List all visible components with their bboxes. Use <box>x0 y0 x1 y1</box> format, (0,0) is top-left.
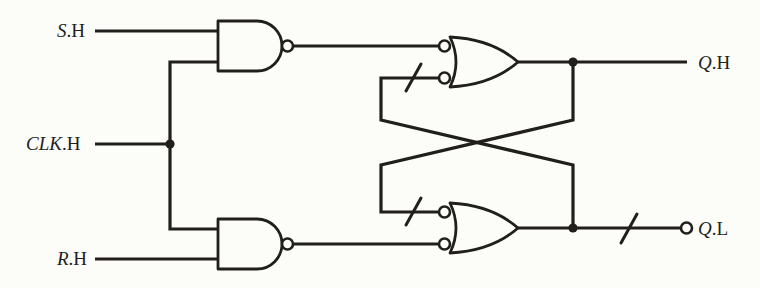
input-label-s: S.H <box>57 20 85 41</box>
label-qh-suffix: .H <box>712 52 731 73</box>
or-gate-top <box>450 37 518 87</box>
label-ql-suffix: .L <box>712 218 728 239</box>
bubble-nand-top-output-icon <box>282 41 293 52</box>
label-qh-var: Q <box>698 52 712 73</box>
nand-gate-bottom <box>218 219 282 269</box>
circuit-canvas: S.H CLK.H R.H Q.H Q.L <box>0 0 760 288</box>
label-clk-var: CLK <box>26 133 63 154</box>
output-label-qh: Q.H <box>698 52 730 73</box>
bubble-or-top-input1-icon <box>439 41 450 52</box>
bubble-ql-output-icon <box>681 223 692 234</box>
output-label-ql: Q.L <box>698 218 728 239</box>
bubble-or-bottom-input2-icon <box>439 239 450 250</box>
input-label-clk: CLK.H <box>26 133 81 154</box>
input-label-r: R.H <box>56 248 87 269</box>
bubble-or-top-input2-icon <box>439 73 450 84</box>
bubble-nand-bottom-output-icon <box>282 239 293 250</box>
junction-dot-clk-icon <box>165 139 174 148</box>
wire-clk-branch <box>170 62 218 229</box>
junction-dot-qh-icon <box>568 57 577 66</box>
or-gate-bottom <box>450 203 518 253</box>
label-s-var: S <box>57 20 67 41</box>
junction-dots <box>165 57 577 232</box>
nand-gate-top <box>218 21 282 71</box>
label-r-suffix: .H <box>69 248 88 269</box>
label-r-var: R <box>56 248 69 269</box>
label-s-suffix: .H <box>67 20 86 41</box>
bubble-or-bottom-input1-icon <box>439 207 450 218</box>
schematic-figure: S.H CLK.H R.H Q.H Q.L <box>0 0 760 288</box>
wires <box>95 31 687 259</box>
label-clk-suffix: .H <box>62 133 81 154</box>
label-ql-var: Q <box>698 218 712 239</box>
junction-dot-ql-icon <box>568 223 577 232</box>
